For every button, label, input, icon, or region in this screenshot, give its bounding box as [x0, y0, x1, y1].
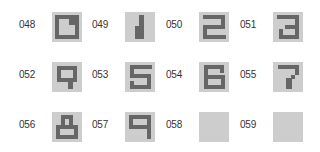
glyph-cell: 059 [221, 100, 301, 150]
glyph-code-label: 048 [19, 19, 35, 30]
glyph-cell: 057 [73, 100, 153, 150]
digit-3-glyph-tile[interactable] [273, 12, 303, 42]
digit-glyph-icon [273, 62, 303, 92]
glyph-cell: 048 [0, 0, 80, 50]
glyph-cell: 058 [147, 100, 227, 150]
glyph-tile-grid: 048049050051052053054055056057058059 [0, 0, 320, 152]
glyph-code-label: 053 [92, 69, 108, 80]
glyph-code-label: 050 [166, 19, 182, 30]
glyph-code-label: 057 [92, 119, 108, 130]
glyph-cell: 053 [73, 50, 153, 100]
digit-glyph-icon [273, 12, 303, 42]
glyph-cell: 052 [0, 50, 80, 100]
glyph-code-label: 055 [240, 69, 256, 80]
glyph-code-label: 059 [240, 119, 256, 130]
empty-glyph-tile[interactable] [273, 112, 303, 142]
glyph-cell: 051 [221, 0, 301, 50]
glyph-cell: 054 [147, 50, 227, 100]
digit-7-glyph-tile[interactable] [273, 62, 303, 92]
glyph-code-label: 051 [240, 19, 256, 30]
glyph-code-label: 056 [19, 119, 35, 130]
glyph-code-label: 052 [19, 69, 35, 80]
glyph-cell: 049 [73, 0, 153, 50]
glyph-code-label: 054 [166, 69, 182, 80]
blank-glyph-icon [273, 112, 303, 142]
glyph-code-label: 058 [166, 119, 182, 130]
glyph-cell: 056 [0, 100, 80, 150]
glyph-code-label: 049 [92, 19, 108, 30]
glyph-cell: 050 [147, 0, 227, 50]
glyph-cell: 055 [221, 50, 301, 100]
